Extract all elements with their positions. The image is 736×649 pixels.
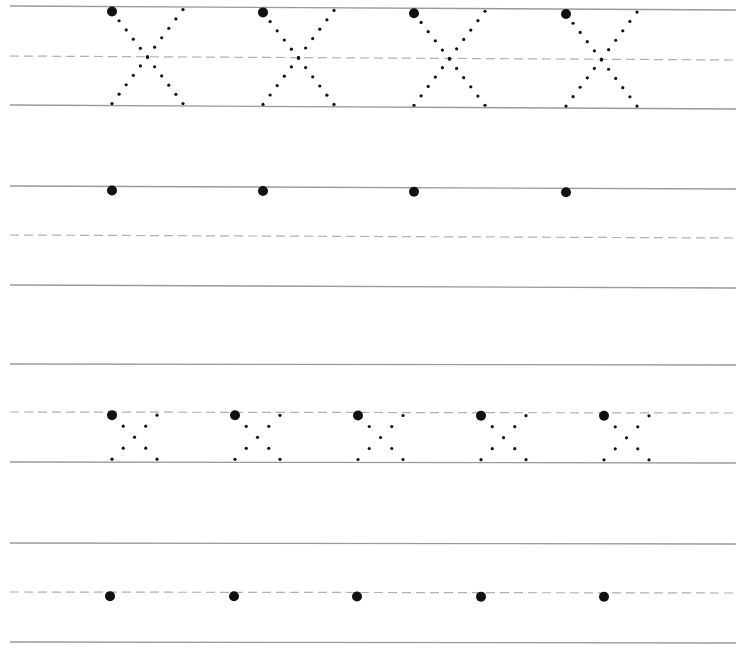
start-dot bbox=[352, 591, 362, 601]
letter-x-4 bbox=[561, 9, 639, 108]
start-dot bbox=[258, 7, 268, 17]
letter-x-2 bbox=[229, 591, 239, 601]
letter-x-1 bbox=[107, 7, 185, 106]
start-dot bbox=[107, 185, 117, 195]
letter-x-2 bbox=[230, 410, 282, 461]
row-2-large-practice bbox=[10, 185, 736, 288]
top-guide-line bbox=[10, 364, 736, 365]
letter-x-4 bbox=[476, 411, 528, 462]
start-dot bbox=[561, 187, 571, 197]
midline-dashed bbox=[10, 56, 736, 60]
row-3-small-lowercase bbox=[10, 364, 736, 463]
letter-x-3 bbox=[409, 187, 419, 197]
start-dot bbox=[476, 592, 486, 602]
baseline bbox=[10, 642, 736, 643]
start-dot bbox=[105, 591, 115, 601]
letter-x-1 bbox=[107, 185, 117, 195]
start-dot bbox=[599, 592, 609, 602]
letter-x-2 bbox=[258, 186, 268, 196]
start-dot bbox=[599, 411, 609, 421]
letter-x-5 bbox=[599, 592, 609, 602]
letter-x-1 bbox=[107, 410, 159, 461]
baseline bbox=[10, 462, 736, 463]
baseline bbox=[10, 285, 736, 288]
midline-dashed bbox=[10, 412, 736, 413]
start-dot bbox=[230, 410, 240, 420]
start-dot bbox=[561, 9, 571, 19]
letter-x-3 bbox=[409, 8, 487, 107]
letter-x-3 bbox=[353, 410, 405, 461]
start-dot bbox=[229, 591, 239, 601]
letter-x-4 bbox=[561, 187, 571, 197]
baseline bbox=[10, 105, 736, 109]
start-dot bbox=[476, 411, 486, 421]
letter-x-3 bbox=[352, 591, 362, 601]
letter-x-1 bbox=[105, 591, 115, 601]
letter-x-5 bbox=[599, 411, 651, 462]
top-guide-line bbox=[10, 6, 736, 10]
midline-dashed bbox=[10, 235, 736, 238]
handwriting-worksheet bbox=[0, 0, 736, 649]
start-dot bbox=[107, 410, 117, 420]
start-dot bbox=[258, 186, 268, 196]
letter-x-4 bbox=[476, 592, 486, 602]
start-dot bbox=[353, 410, 363, 420]
letter-x-2 bbox=[258, 7, 336, 106]
row-1-large-uppercase bbox=[10, 6, 736, 109]
start-dot bbox=[409, 187, 419, 197]
midline-dashed bbox=[10, 592, 736, 593]
top-guide-line bbox=[10, 186, 736, 189]
start-dot bbox=[107, 7, 117, 17]
top-guide-line bbox=[10, 543, 736, 544]
row-4-small-practice bbox=[10, 543, 736, 643]
start-dot bbox=[409, 8, 419, 18]
